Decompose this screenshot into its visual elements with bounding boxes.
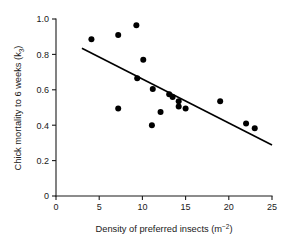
x-tick-label: 0	[53, 202, 58, 212]
data-point	[252, 125, 258, 131]
data-point	[88, 36, 94, 42]
x-tick-label: 15	[181, 202, 191, 212]
x-tick-label: 25	[267, 202, 277, 212]
data-point	[243, 120, 249, 126]
x-tick-label: 20	[224, 202, 234, 212]
data-point	[176, 98, 182, 104]
data-point	[134, 75, 140, 81]
data-point	[176, 104, 182, 110]
data-point	[149, 122, 155, 128]
y-tick-label: 0.6	[36, 85, 49, 95]
data-point	[183, 105, 189, 111]
x-tick-label: 10	[137, 202, 147, 212]
y-axis-title: Chick mortality to 6 weeks (k3)	[13, 46, 25, 171]
y-tick-label: 0.4	[36, 121, 49, 131]
axis-tick-labels: 00.20.40.60.81.00510152025	[36, 14, 277, 212]
data-point	[115, 32, 121, 38]
data-point	[158, 109, 164, 115]
fit-line	[82, 48, 272, 145]
chart-figure: 00.20.40.60.81.00510152025 Density of pr…	[0, 0, 293, 244]
y-tick-label: 0.8	[36, 50, 49, 60]
scatter-plot: 00.20.40.60.81.00510152025 Density of pr…	[0, 0, 293, 244]
regression-line	[82, 48, 272, 145]
data-points	[88, 22, 257, 131]
x-axis-title: Density of preferred insects (m−2)	[96, 223, 233, 234]
y-tick-label: 0	[44, 191, 49, 201]
x-tick-label: 5	[97, 202, 102, 212]
data-point	[115, 105, 121, 111]
axes	[56, 19, 272, 196]
data-point	[217, 98, 223, 104]
data-point	[170, 94, 176, 100]
y-tick-label: 0.2	[36, 156, 49, 166]
data-point	[150, 86, 156, 92]
data-point	[140, 57, 146, 63]
data-point	[133, 22, 139, 28]
y-tick-label: 1.0	[36, 14, 49, 24]
